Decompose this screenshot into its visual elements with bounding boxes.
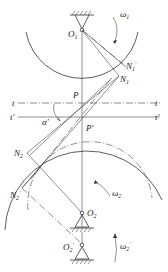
omega1-arrowhead-icon	[113, 40, 117, 44]
label-alpha-prime: α′	[42, 117, 50, 127]
omega2-arrow-icon	[95, 182, 110, 196]
line-of-action-prime-dash	[30, 80, 110, 180]
gear-diagram: O1 ω1 N1′ N1 P P′ t t t′ t′ α′ N2 N2′ O2…	[0, 0, 168, 272]
line-n2prime-o2prime	[22, 188, 82, 244]
label-omega2prime: ω2′	[120, 241, 131, 252]
label-omega2: ω2	[112, 188, 121, 199]
label-n1prime: N1′	[125, 61, 137, 72]
line-o1-n1	[82, 30, 119, 76]
omega2prime-arrow-icon	[115, 236, 117, 262]
label-t-left: t	[12, 98, 15, 108]
label-p: P	[72, 90, 79, 100]
label-n2: N2	[13, 148, 23, 159]
pressure-angle-arrow-icon	[57, 117, 60, 121]
label-pprime: P′	[85, 123, 94, 133]
label-t-right: t	[155, 98, 158, 108]
line-n2-o2	[27, 153, 82, 213]
label-n2prime: N2′	[9, 190, 21, 201]
label-o2prime: O2′	[63, 242, 75, 253]
label-tprime-left: t′	[10, 112, 16, 122]
label-omega1: ω1	[120, 9, 129, 20]
gear2-inner-arc	[28, 142, 152, 210]
omega2prime-arrowhead-icon	[113, 233, 117, 238]
label-o2: O2	[87, 208, 97, 219]
omega1-arrow-icon	[113, 17, 117, 41]
label-o1: O1	[68, 29, 78, 40]
ground-support-o2prime	[70, 232, 94, 264]
label-n1: N1	[119, 74, 129, 85]
